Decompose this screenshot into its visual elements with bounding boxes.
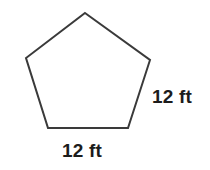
pentagon-figure: 12 ft 12 ft — [0, 0, 210, 170]
pentagon-outline — [26, 13, 150, 128]
side-length-label-right: 12 ft — [152, 87, 192, 106]
side-length-label-bottom: 12 ft — [62, 141, 102, 160]
pentagon-shape-svg — [0, 0, 210, 170]
